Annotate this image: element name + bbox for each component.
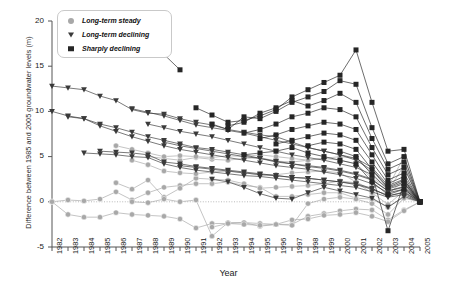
data-point — [305, 216, 310, 221]
x-tick-label: 1999 — [327, 238, 336, 254]
data-point — [97, 123, 103, 128]
x-tick-label: 2003 — [391, 238, 400, 254]
data-point — [354, 138, 359, 143]
legend-label: Long-term declining — [82, 31, 149, 38]
data-point — [177, 170, 182, 175]
circle-icon — [68, 18, 74, 24]
data-point — [385, 212, 390, 217]
data-point — [273, 222, 278, 227]
x-tick-label: 1995 — [263, 238, 272, 254]
data-point — [258, 111, 263, 116]
data-point — [290, 138, 295, 143]
chart-figure: Difference between 1985 and 2005 groundw… — [0, 0, 457, 293]
x-tick-label: 2002 — [375, 238, 384, 254]
data-point — [226, 123, 231, 128]
data-point — [370, 172, 375, 177]
data-point — [113, 210, 118, 215]
data-point — [273, 154, 278, 159]
data-point — [145, 177, 150, 182]
data-point — [338, 158, 343, 163]
data-point — [306, 111, 311, 116]
data-point — [386, 192, 391, 197]
data-point — [337, 212, 342, 217]
data-point — [306, 123, 311, 128]
x-tick-label: 1989 — [167, 238, 176, 254]
data-point — [210, 122, 215, 127]
x-tick-label: 1992 — [215, 238, 224, 254]
data-point — [113, 98, 119, 103]
data-point — [322, 120, 327, 125]
data-point — [274, 132, 279, 137]
x-tick-label: 1987 — [135, 238, 144, 254]
data-point — [402, 165, 407, 170]
data-point — [322, 154, 327, 159]
data-point — [145, 200, 150, 205]
x-tick-label: 1998 — [311, 238, 320, 254]
data-point — [97, 214, 102, 219]
data-point — [97, 196, 102, 201]
data-point — [370, 160, 375, 165]
data-point — [209, 233, 214, 238]
data-point — [370, 152, 375, 157]
data-point — [145, 162, 150, 167]
data-point — [49, 199, 54, 204]
data-point — [242, 114, 247, 119]
data-point — [193, 197, 198, 202]
x-tick-label: 1986 — [119, 238, 128, 254]
data-point — [225, 221, 230, 226]
data-point — [161, 154, 166, 159]
data-point — [194, 105, 199, 110]
triangle-down-icon — [68, 32, 74, 37]
data-point — [322, 98, 327, 103]
x-tick-label: 1997 — [295, 238, 304, 254]
data-point — [177, 199, 182, 204]
data-point — [290, 145, 295, 150]
data-point — [354, 47, 359, 52]
data-point — [193, 225, 198, 230]
data-point — [338, 73, 343, 78]
data-point — [354, 154, 359, 159]
data-point — [322, 140, 327, 145]
data-point — [370, 179, 375, 184]
data-point — [321, 196, 326, 201]
data-point — [370, 136, 375, 141]
data-point — [306, 134, 311, 139]
data-point — [369, 214, 374, 219]
data-point — [178, 67, 183, 72]
x-tick-label: 1984 — [87, 238, 96, 254]
data-point — [338, 107, 343, 112]
data-point — [113, 129, 119, 134]
data-point — [289, 223, 294, 228]
data-point — [402, 147, 407, 152]
data-point — [338, 122, 343, 127]
data-point — [113, 189, 118, 194]
y-tick-label: 0 — [22, 196, 44, 205]
x-tick-label: 1994 — [247, 238, 256, 254]
data-point — [354, 147, 359, 152]
data-point — [274, 105, 279, 110]
data-point — [242, 152, 247, 157]
data-point — [161, 168, 166, 173]
data-point — [257, 186, 262, 191]
data-point — [338, 78, 343, 83]
data-point — [370, 145, 375, 150]
data-point — [258, 127, 263, 132]
data-point — [81, 198, 86, 203]
data-point — [322, 105, 327, 110]
x-tick-label: 2000 — [343, 238, 352, 254]
data-point — [161, 196, 166, 201]
data-point — [129, 212, 134, 217]
data-point — [274, 141, 279, 146]
data-point — [258, 150, 263, 155]
x-tick-label: 1991 — [199, 238, 208, 254]
data-point — [177, 153, 182, 158]
data-point — [386, 228, 391, 233]
data-point — [177, 216, 182, 221]
data-point — [386, 149, 391, 154]
data-point — [386, 172, 391, 177]
data-point — [418, 199, 423, 204]
data-point — [306, 103, 311, 108]
x-tick-label: 2004 — [407, 238, 416, 254]
x-tick-label: 1996 — [279, 238, 288, 254]
y-tick-label: -5 — [22, 242, 44, 251]
